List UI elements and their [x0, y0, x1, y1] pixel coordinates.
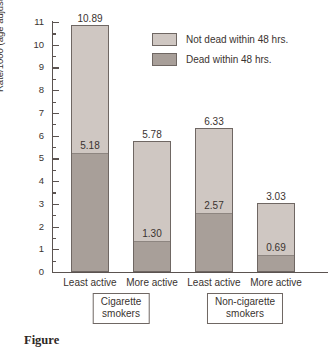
bar-total-label: 5.78	[142, 129, 161, 140]
group-label-line2: smokers	[101, 308, 142, 320]
y-tick-label: 2	[39, 222, 44, 232]
legend-swatch-not-dead-icon	[152, 33, 177, 46]
bar-segment-dead	[134, 241, 170, 271]
legend-item-dead: Dead within 48 hrs.	[152, 53, 288, 66]
y-tick-label: 8	[39, 85, 44, 95]
group-label-line1: Cigarette	[101, 296, 142, 308]
y-tick-label: 5	[39, 154, 44, 164]
y-axis-title: Rate/1000 (age adjusted)	[0, 0, 5, 92]
y-tick-label: 10	[33, 40, 44, 50]
bar-total-label: 6.33	[204, 116, 223, 127]
y-tick-label: 6	[39, 131, 44, 141]
bar-total-label: 10.89	[77, 13, 102, 24]
bar-segment-dead	[72, 153, 108, 271]
bar-total-label: 3.03	[266, 191, 285, 202]
bar: 3.030.69	[257, 203, 295, 272]
x-category-label: Least active	[187, 277, 240, 288]
group-box: Cigarettesmokers	[93, 293, 150, 324]
bar-dead-label: 5.18	[80, 140, 99, 151]
y-tick-label: 0	[39, 267, 44, 277]
legend-label-dead: Dead within 48 hrs.	[186, 54, 272, 65]
group-box: Non-cigarettesmokers	[207, 293, 283, 324]
y-tick-label: 11	[34, 17, 44, 27]
bar: 5.781.30	[133, 141, 171, 272]
y-tick-label: 7	[39, 108, 44, 118]
bar-dead-label: 2.57	[204, 200, 223, 211]
legend: Not dead within 48 hrs. Dead within 48 h…	[152, 33, 288, 73]
x-category-label: Least active	[63, 277, 116, 288]
legend-swatch-dead-icon	[152, 53, 177, 66]
y-tick-label: 9	[39, 63, 44, 73]
x-category-label: More active	[126, 277, 178, 288]
y-tick-label: 3	[39, 199, 44, 209]
x-axis-line	[52, 272, 328, 273]
y-tick-major	[52, 272, 59, 273]
group-label-line2: smokers	[215, 308, 275, 320]
bar-segment-dead	[196, 213, 232, 271]
legend-label-not-dead: Not dead within 48 hrs.	[186, 34, 288, 45]
y-tick-label: 1	[39, 245, 44, 255]
figure-caption: Figure	[24, 333, 59, 348]
bar-dead-label: 0.69	[266, 242, 285, 253]
bar: 10.895.18	[71, 25, 109, 273]
bar-segment-dead	[258, 255, 294, 271]
x-category-label: More active	[250, 277, 302, 288]
y-tick-label: 4	[39, 176, 44, 186]
bar: 6.332.57	[195, 128, 233, 272]
bar-dead-label: 1.30	[142, 228, 161, 239]
group-label-line1: Non-cigarette	[215, 296, 275, 308]
legend-item-not-dead: Not dead within 48 hrs.	[152, 33, 288, 46]
